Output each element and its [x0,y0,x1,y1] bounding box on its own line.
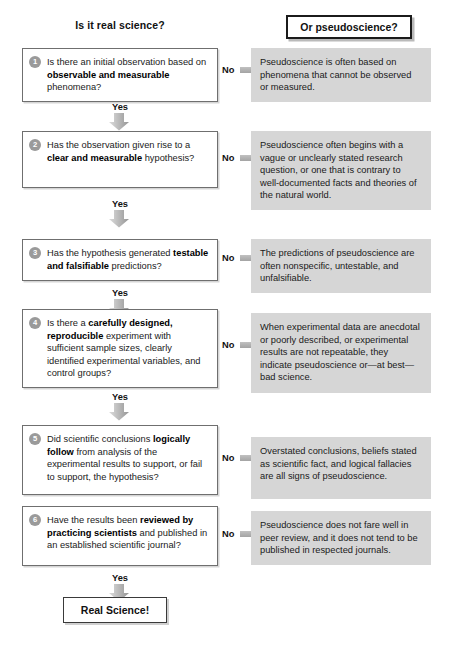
yes-branch-arrow-icon-1 [108,113,132,131]
question-text-6: 6Have the results been reviewed by pract… [23,507,217,559]
step-number-badge-1: 1 [29,56,41,68]
final-outcome-box: Real Science! [63,597,167,623]
step-number-badge-6: 6 [29,514,41,526]
no-branch-label-2: No [222,153,238,163]
answer-text-1: Pseudoscience is often based on phenomen… [251,48,431,102]
yes-branch-label-2: Yes [22,199,218,209]
answer-panel-6: Pseudoscience does not fare well in peer… [251,511,431,565]
yes-branch-arrow-icon-2 [108,210,132,228]
step-number-badge-3: 3 [29,247,41,259]
answer-panel-5: Overstated conclusions, beliefs stated a… [251,437,431,499]
answer-text-6: Pseudoscience does not fare well in peer… [251,511,431,565]
yes-branch-label-3: Yes [22,288,218,298]
yes-branch-arrow-icon-4 [108,403,132,421]
question-text-2: 2Has the observation given rise to a cle… [23,132,217,171]
answer-panel-2: Pseudoscience often begins with a vague … [251,131,431,210]
column-header-right-box: Or pseudoscience? [286,15,412,39]
no-branch-label-4: No [222,340,238,350]
question-text-4: 4Is there a carefully designed, reproduc… [23,310,217,387]
step-number-badge-2: 2 [29,139,41,151]
question-text-1: 1Is there an initial observation based o… [23,49,217,101]
no-branch-label-5: No [222,453,238,463]
answer-text-4: When experimental data are anecdotal or … [251,313,431,392]
answer-text-2: Pseudoscience often begins with a vague … [251,131,431,210]
no-branch-label-3: No [222,253,238,263]
yes-branch-label-4: Yes [22,392,218,402]
answer-panel-3: The predictions of pseudoscience are oft… [251,239,431,293]
question-box-4: 4Is there a carefully designed, reproduc… [22,309,218,388]
flowchart-diagram: Is it real science? Or pseudoscience? 1I… [0,0,450,649]
question-text-3: 3Has the hypothesis generated testable a… [23,240,217,279]
final-outcome-label: Real Science! [81,604,149,616]
column-header-left: Is it real science? [22,19,218,31]
answer-panel-4: When experimental data are anecdotal or … [251,313,431,393]
question-box-3: 3Has the hypothesis generated testable a… [22,239,218,281]
yes-branch-label-6: Yes [22,573,218,583]
no-branch-label-6: No [222,529,238,539]
answer-text-3: The predictions of pseudoscience are oft… [251,239,431,293]
question-box-5: 5Did scientific conclusions logically fo… [22,425,218,495]
question-box-6: 6Have the results been reviewed by pract… [22,506,218,566]
column-header-right-label: Or pseudoscience? [300,21,397,33]
question-box-2: 2Has the observation given rise to a cle… [22,131,218,188]
step-number-badge-5: 5 [29,433,41,445]
yes-branch-label-1: Yes [22,102,218,112]
no-branch-label-1: No [222,65,238,75]
answer-text-5: Overstated conclusions, beliefs stated a… [251,437,431,491]
answer-panel-1: Pseudoscience is often based on phenomen… [251,48,431,102]
question-text-5: 5Did scientific conclusions logically fo… [23,426,217,490]
step-number-badge-4: 4 [29,317,41,329]
question-box-1: 1Is there an initial observation based o… [22,48,218,102]
